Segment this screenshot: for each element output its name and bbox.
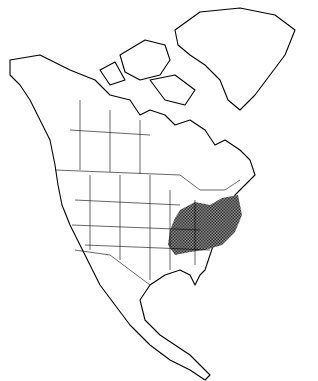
- arctic-islands: [100, 40, 195, 105]
- greenland: [175, 8, 295, 110]
- range-map: [0, 0, 318, 381]
- north-america-map: [0, 0, 318, 381]
